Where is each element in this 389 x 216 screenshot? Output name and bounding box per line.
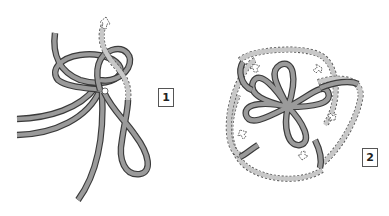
- step-1-number: 1: [162, 91, 170, 104]
- step-2-illustration: [229, 50, 361, 179]
- step-2-number: 2: [366, 151, 374, 164]
- step-1-illustration: [17, 17, 148, 200]
- knot-diagram: [0, 0, 389, 216]
- step-2-label: 2: [362, 148, 378, 167]
- step-1-label: 1: [158, 88, 174, 107]
